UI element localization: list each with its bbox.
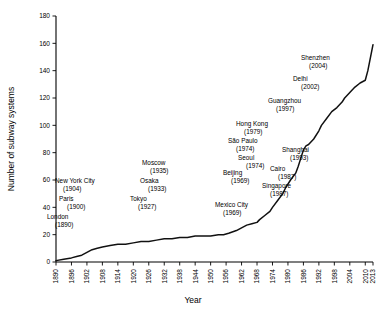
- x-tick-label: 1914: [114, 269, 121, 284]
- annotation-year: (2004): [309, 62, 327, 70]
- annotation-year: (1927): [138, 203, 156, 211]
- x-tick-label: 2010: [362, 269, 369, 284]
- annotation-city: Mexico City: [215, 201, 249, 209]
- x-tick-label: 1968: [253, 269, 260, 284]
- annotation-year: (1969): [231, 177, 249, 185]
- annotation-city: Shenzhen: [301, 54, 330, 61]
- x-tick-label: 1980: [284, 269, 291, 284]
- annotation-city: Seoul: [238, 154, 254, 161]
- annotation-year: (1987): [270, 190, 288, 198]
- annotation-city: London: [47, 213, 69, 220]
- y-tick-label: 180: [39, 12, 50, 19]
- x-tick-label: 1890: [52, 269, 59, 284]
- y-tick-label: 140: [39, 67, 50, 74]
- x-tick-label: 1938: [176, 269, 183, 284]
- annotation-city: New York City: [55, 177, 96, 185]
- annotation-city: Hong Kong: [236, 120, 268, 128]
- annotation-new-york-city: New York City(1904): [55, 177, 96, 193]
- annotation-year: (1900): [67, 203, 85, 211]
- annotation-osaka: Osaka(1933): [140, 177, 166, 193]
- annotation-year: (1933): [148, 185, 166, 193]
- annotation-year: (1997): [276, 105, 294, 113]
- x-tick-label: 1950: [207, 269, 214, 284]
- annotation-tokyo: Tokyo(1927): [130, 195, 156, 211]
- annotation-city: Delhi: [293, 75, 308, 82]
- annotation-shanghai: Shanghai(1993): [282, 146, 309, 162]
- annotation-mexico-city: Mexico City(1969): [215, 201, 249, 217]
- annotation-hong-kong: Hong Kong(1979): [236, 120, 268, 136]
- annotation-city: Cairo: [270, 165, 286, 172]
- annotation-city: Paris: [59, 195, 74, 202]
- y-tick-label: 100: [39, 122, 50, 129]
- x-tick-label: 1932: [161, 269, 168, 284]
- x-tick-label: 1902: [83, 269, 90, 284]
- subway-systems-chart: 0204060801001201401601801890189619021908…: [0, 0, 386, 318]
- y-tick-label: 120: [39, 94, 50, 101]
- annotation-city: Moscow: [142, 159, 166, 166]
- x-tick-label: 1896: [68, 269, 75, 284]
- annotation-delhi: Delhi(2002): [293, 75, 319, 91]
- x-tick-label: 1986: [300, 269, 307, 284]
- annotation-guangzhou: Guangzhou(1997): [268, 97, 301, 113]
- annotation-year: (1993): [290, 154, 308, 162]
- annotation-year: (1974): [246, 162, 264, 170]
- annotation-year: (1979): [244, 128, 262, 136]
- annotation-city: Osaka: [140, 177, 159, 184]
- annotation-year: (1904): [63, 185, 81, 193]
- y-axis-title: Number of subway systems: [6, 87, 16, 191]
- annotation-beijing: Beijing(1969): [223, 169, 249, 185]
- x-tick-label: 1998: [331, 269, 338, 284]
- x-tick-label: 1926: [145, 269, 152, 284]
- annotation-city: Shanghai: [282, 146, 309, 154]
- annotation-city: Guangzhou: [268, 97, 301, 105]
- y-tick-label: 60: [43, 176, 51, 183]
- y-tick-label: 0: [46, 258, 50, 265]
- y-tick-label: 160: [39, 40, 50, 47]
- annotation-seoul: Seoul(1974): [238, 154, 264, 170]
- annotation-year: (2002): [301, 83, 319, 91]
- annotation-city: Singapore: [262, 182, 292, 190]
- annotation-moscow: Moscow(1935): [142, 159, 168, 175]
- y-tick-label: 20: [43, 231, 51, 238]
- annotation-city: São Paulo: [228, 137, 258, 144]
- annotation-city: Beijing: [223, 169, 243, 177]
- x-tick-label: 2013: [369, 269, 376, 284]
- x-tick-label: 2004: [346, 269, 353, 284]
- annotation-year: (1935): [150, 167, 168, 175]
- annotation-s-o-paulo: São Paulo(1974): [228, 137, 258, 153]
- annotation-shenzhen: Shenzhen(2004): [301, 54, 330, 70]
- chart-canvas: 0204060801001201401601801890189619021908…: [0, 0, 386, 318]
- annotation-year: (1890): [55, 221, 73, 229]
- annotation-year: (1974): [236, 145, 254, 153]
- x-tick-label: 1956: [222, 269, 229, 284]
- x-tick-label: 1992: [315, 269, 322, 284]
- annotation-year: (1987): [278, 173, 296, 181]
- annotation-cairo: Cairo(1987): [270, 165, 296, 181]
- y-tick-label: 80: [43, 149, 51, 156]
- x-tick-label: 1908: [99, 269, 106, 284]
- x-tick-label: 1944: [192, 269, 199, 284]
- annotation-city: Tokyo: [130, 195, 147, 203]
- x-tick-label: 1962: [238, 269, 245, 284]
- y-tick-label: 40: [43, 204, 51, 211]
- x-tick-label: 1920: [130, 269, 137, 284]
- annotation-year: (1969): [223, 209, 241, 217]
- x-tick-label: 1974: [269, 269, 276, 284]
- x-axis-title: Year: [184, 295, 201, 305]
- annotation-london: London(1890): [47, 213, 73, 229]
- annotation-paris: Paris(1900): [59, 195, 85, 211]
- series-line-cumulative-subway-systems: [56, 45, 373, 261]
- annotation-singapore: Singapore(1987): [262, 182, 292, 198]
